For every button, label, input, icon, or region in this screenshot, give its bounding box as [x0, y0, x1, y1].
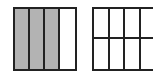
fraction-cell [60, 9, 75, 69]
fraction-cell [15, 9, 30, 69]
fraction-square-left [13, 7, 77, 71]
fraction-cell [94, 9, 110, 39]
fraction-cell [94, 39, 110, 69]
fraction-cell [110, 39, 126, 69]
fraction-cell [141, 9, 154, 39]
fraction-cell [141, 39, 154, 69]
fraction-cell [125, 39, 141, 69]
fraction-cell [45, 9, 60, 69]
fraction-cell [30, 9, 45, 69]
fraction-square-right [92, 7, 153, 71]
fraction-cell [110, 9, 126, 39]
fraction-cell [125, 9, 141, 39]
